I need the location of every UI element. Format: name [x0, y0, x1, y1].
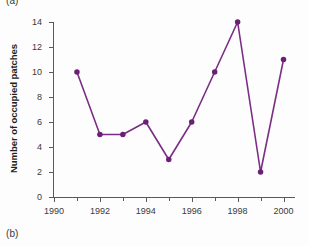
series-markers — [74, 19, 286, 175]
x-tick-mark — [146, 198, 147, 202]
y-tick-mark — [49, 197, 53, 198]
y-tick-mark — [49, 122, 53, 123]
y-axis-title: Number of occupied patches — [8, 19, 19, 199]
figure-panel: (a) Number of occupied patches 024681012… — [0, 0, 309, 246]
plot-area: 02468101214 199019921994199619982000 — [54, 22, 295, 197]
panel-label-b: (b) — [6, 228, 19, 239]
x-tick-label: 1990 — [44, 206, 64, 216]
y-tick: 6 — [49, 122, 53, 123]
data-series-line — [54, 22, 295, 198]
x-tick-mark — [54, 198, 55, 202]
x-tick-mark-minor — [123, 198, 124, 201]
data-point — [235, 19, 241, 25]
y-tick-label: 12 — [32, 42, 42, 52]
x-tick-mark-minor — [169, 198, 170, 201]
y-tick-label: 4 — [37, 142, 42, 152]
x-tick-label: 2000 — [274, 206, 294, 216]
x-tick-label: 1994 — [136, 206, 156, 216]
y-tick-label: 14 — [32, 17, 42, 27]
x-tick-mark — [100, 198, 101, 202]
x-tick-mark — [238, 198, 239, 202]
data-point — [189, 119, 195, 125]
y-tick: 0 — [49, 197, 53, 198]
y-tick-label: 6 — [37, 117, 42, 127]
y-tick-mark — [49, 22, 53, 23]
y-tick-mark — [49, 72, 53, 73]
data-point — [143, 119, 149, 125]
data-point — [212, 69, 218, 75]
y-tick: 8 — [49, 97, 53, 98]
y-tick-mark — [49, 97, 53, 98]
data-point — [166, 157, 172, 163]
x-tick-label: 1996 — [182, 206, 202, 216]
series-polyline — [77, 22, 284, 172]
panel-label-a: (a) — [6, 0, 19, 6]
data-point — [258, 169, 264, 175]
y-tick-label: 10 — [32, 67, 42, 77]
y-tick: 2 — [49, 172, 53, 173]
data-point — [281, 57, 287, 63]
y-tick: 4 — [49, 147, 53, 148]
y-tick: 14 — [49, 22, 53, 23]
x-tick-mark — [192, 198, 193, 202]
y-tick-mark — [49, 172, 53, 173]
data-point — [120, 132, 126, 138]
x-tick-mark-minor — [261, 198, 262, 201]
x-tick-mark-minor — [215, 198, 216, 201]
y-tick-label: 2 — [37, 167, 42, 177]
x-tick-label: 1992 — [90, 206, 110, 216]
y-tick: 10 — [49, 72, 53, 73]
y-tick-mark — [49, 147, 53, 148]
y-tick: 12 — [49, 47, 53, 48]
y-tick-label: 0 — [37, 192, 42, 202]
y-tick-mark — [49, 47, 53, 48]
y-tick-label: 8 — [37, 92, 42, 102]
x-tick-mark — [284, 198, 285, 202]
data-point — [74, 69, 80, 75]
data-point — [97, 132, 103, 138]
x-tick-label: 1998 — [228, 206, 248, 216]
x-tick-mark-minor — [77, 198, 78, 201]
